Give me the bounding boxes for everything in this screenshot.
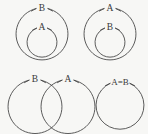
label-outer-a: A xyxy=(107,3,114,13)
label-leader-b-inner-left xyxy=(101,28,105,30)
label-leader-eq-right xyxy=(130,83,135,85)
label-a-equals-b: A=B xyxy=(111,77,129,87)
diagram-b-subset-a: A B xyxy=(74,0,148,68)
diagram-a-equals-b: A=B xyxy=(92,68,148,134)
label-right-a: A xyxy=(65,74,72,84)
outer-circle-b xyxy=(16,9,68,60)
diagram-a-overlap-b: B A xyxy=(0,68,95,134)
diagram-a-subset-b: B A xyxy=(0,0,74,68)
label-leader-b-inner xyxy=(116,28,120,30)
set-relations-figure: B A A B B A xyxy=(0,0,148,134)
label-leader-a xyxy=(48,28,52,30)
left-circle-b xyxy=(8,80,62,133)
label-leader-a-left xyxy=(33,28,37,30)
inner-circle-a xyxy=(27,28,57,57)
label-outer-b: B xyxy=(39,3,45,13)
label-inner-b: B xyxy=(107,22,113,32)
inner-circle-b xyxy=(95,28,125,57)
circle-a-equals-b xyxy=(96,83,144,129)
label-left-b: B xyxy=(32,74,38,84)
label-inner-a: A xyxy=(39,22,46,32)
label-leader-eq-left xyxy=(106,83,111,85)
outer-circle-a xyxy=(84,9,136,60)
right-circle-a xyxy=(41,80,95,133)
